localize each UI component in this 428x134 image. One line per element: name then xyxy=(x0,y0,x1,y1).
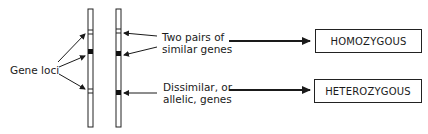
similar-genes-label-line2: similar genes xyxy=(162,43,232,55)
gene-loci-arrows xyxy=(58,34,85,89)
similar-genes-label-line1: Two pairs of xyxy=(162,31,224,43)
result-arrows xyxy=(229,41,310,90)
heterozygous-box: HETEROZYGOUS xyxy=(314,79,422,103)
gene-loci-label: Gene loci xyxy=(10,64,59,76)
chromosome-left xyxy=(88,9,93,127)
homozygous-box: HOMOZYGOUS xyxy=(315,29,422,53)
allelic-genes-label-line1: Dissimilar, or xyxy=(163,81,232,93)
diagram-graphics xyxy=(0,0,428,134)
allelic-genes-label-line2: allelic, genes xyxy=(163,93,232,105)
label-arrows xyxy=(124,33,157,93)
chromosome-right xyxy=(116,9,121,127)
